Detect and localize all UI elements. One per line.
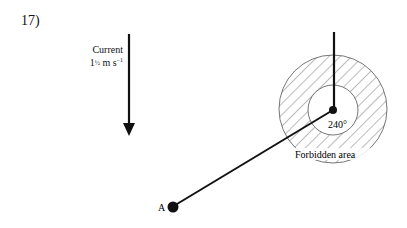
forbidden-area-label: Forbidden area — [295, 149, 356, 160]
point-a-label: A — [158, 202, 166, 213]
diagram-canvas: A 240° Forbidden area — [0, 0, 407, 228]
angle-label: 240° — [328, 119, 347, 130]
center-point — [329, 106, 337, 114]
point-a — [168, 202, 179, 213]
current-arrow-icon — [123, 34, 135, 136]
